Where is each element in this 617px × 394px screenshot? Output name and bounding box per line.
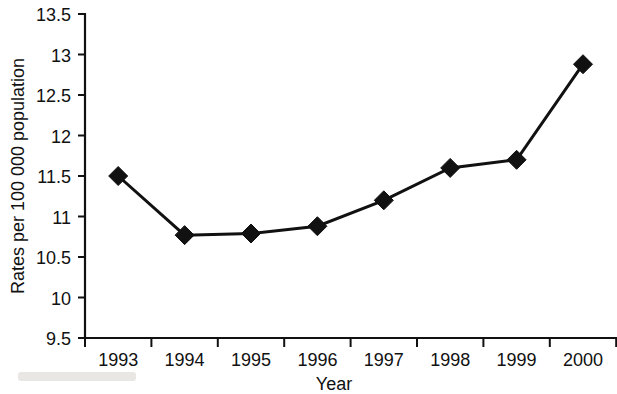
x-tick-marks bbox=[85, 338, 616, 347]
x-axis-title: Year bbox=[316, 374, 352, 394]
x-tick-label: 1995 bbox=[231, 350, 271, 370]
y-tick-label: 12 bbox=[51, 127, 71, 147]
x-tick-label: 1999 bbox=[497, 350, 537, 370]
x-tick-labels: 1993 1994 1995 1996 1997 1998 1999 2000 bbox=[98, 350, 603, 370]
data-markers bbox=[109, 55, 593, 245]
x-tick-label: 1993 bbox=[98, 350, 138, 370]
x-tick-label: 2000 bbox=[563, 350, 603, 370]
y-axis-title: Rates per 100 000 population bbox=[8, 58, 28, 294]
y-tick-label: 13 bbox=[51, 46, 71, 66]
y-tick-label: 9.5 bbox=[46, 329, 71, 349]
data-point-marker bbox=[441, 158, 460, 177]
x-tick-label: 1997 bbox=[364, 350, 404, 370]
y-tick-label: 10 bbox=[51, 289, 71, 309]
chart-canvas: 13.5 13 12.5 12 11.5 11 10.5 10 9.5 1993… bbox=[0, 0, 617, 394]
y-tick-label: 11 bbox=[52, 208, 71, 228]
data-point-marker bbox=[574, 55, 593, 74]
scan-artifact bbox=[18, 372, 136, 381]
data-line bbox=[118, 64, 583, 235]
y-tick-labels: 13.5 13 12.5 12 11.5 11 10.5 10 9.5 bbox=[36, 5, 71, 349]
x-tick-label: 1996 bbox=[297, 350, 337, 370]
y-tick-label: 10.5 bbox=[36, 248, 71, 268]
data-point-marker bbox=[507, 150, 526, 169]
y-tick-label: 13.5 bbox=[36, 5, 71, 25]
y-tick-label: 12.5 bbox=[36, 86, 71, 106]
data-point-marker bbox=[374, 191, 393, 210]
data-point-marker bbox=[242, 224, 261, 243]
y-tick-label: 11.5 bbox=[37, 167, 71, 187]
x-tick-label: 1994 bbox=[165, 350, 205, 370]
line-chart: 13.5 13 12.5 12 11.5 11 10.5 10 9.5 1993… bbox=[0, 0, 617, 394]
axis-lines bbox=[85, 14, 616, 338]
x-tick-label: 1998 bbox=[430, 350, 470, 370]
data-point-marker bbox=[308, 217, 327, 236]
